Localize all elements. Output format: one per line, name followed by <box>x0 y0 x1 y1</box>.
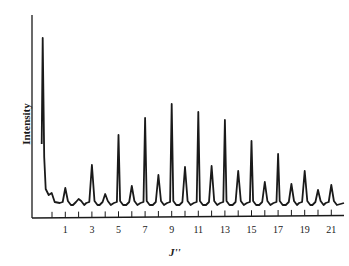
x-tick-label: 5 <box>116 224 121 235</box>
x-tick-label: 19 <box>300 224 310 235</box>
spectrum-line <box>42 38 344 205</box>
x-tick-label: 9 <box>169 224 174 235</box>
x-tick-label: 7 <box>143 224 148 235</box>
axes <box>32 15 344 218</box>
x-tick-label: 11 <box>193 224 203 235</box>
x-tick-label: 13 <box>220 224 230 235</box>
x-tick-label: 3 <box>89 224 94 235</box>
x-tick-label: 17 <box>273 224 283 235</box>
y-axis-label: Intensity <box>20 94 32 154</box>
x-tick-label: 21 <box>326 224 336 235</box>
x-tick-label: 1 <box>63 224 68 235</box>
x-tick-label: 15 <box>247 224 257 235</box>
x-axis-label: J'' <box>169 246 181 258</box>
spectrum-chart <box>0 0 349 266</box>
